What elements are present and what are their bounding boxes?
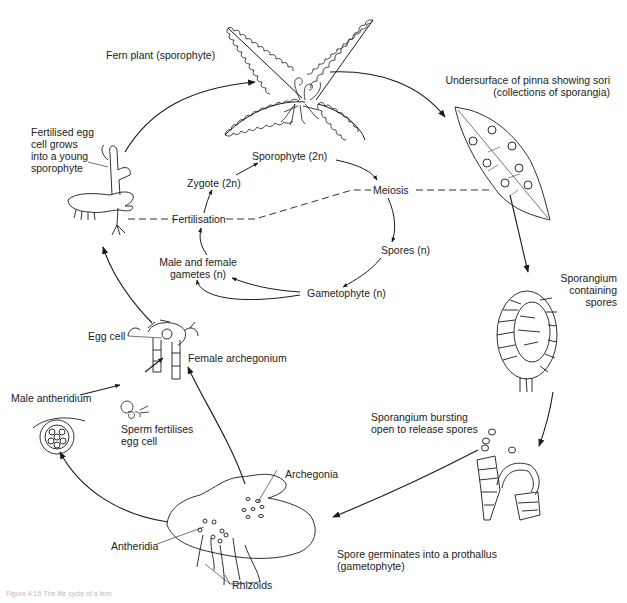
label-inner-zygote: Zygote (2n) xyxy=(187,177,241,189)
dash-fertilisation-to-meiosis xyxy=(226,190,371,219)
label-inner-sporophyte: Sporophyte (2n) xyxy=(252,150,327,162)
figure-caption: Figure 4.16 The life cycle of a fern xyxy=(6,590,112,597)
label-male-antheridium: Male antheridium xyxy=(11,392,92,404)
arrow-sperm-to-archegonium xyxy=(145,358,163,372)
leader-rhizoids-2 xyxy=(225,575,230,584)
label-inner-gametes: Male and female gametes (n) xyxy=(148,256,248,280)
label-prothallus: Spore germinates into a prothallus (game… xyxy=(337,548,497,572)
arrow-gametophyte-to-gametes-2 xyxy=(197,280,300,300)
arrow-sporangium-to-bursting xyxy=(539,392,553,446)
archegonium-drawing xyxy=(128,320,198,379)
label-sporangium-bursting: Sporangium bursting open to release spor… xyxy=(371,411,478,435)
pinna-leaf-drawing xyxy=(455,107,550,220)
arrow-prothallus-to-antheridium xyxy=(60,452,168,522)
arrow-spores-to-gametophyte xyxy=(343,258,381,287)
leader-antheridia xyxy=(157,527,204,544)
label-young-sporophyte: Fertilised egg cell grows into a young s… xyxy=(31,126,94,174)
label-sporangium: Sporangium containing spores xyxy=(545,272,617,308)
leader-rhizoids-1 xyxy=(205,564,230,584)
label-sperm: Sperm fertilises egg cell xyxy=(121,423,193,447)
arrow-pinna-to-sporangium xyxy=(510,195,528,272)
arrow-archegonium-to-young xyxy=(103,247,152,323)
leader-egg-cell xyxy=(128,336,162,338)
arrow-gametes-to-fertilisation xyxy=(200,228,207,255)
arrow-fern-to-pinna xyxy=(330,72,445,117)
label-inner-fertilisation: Fertilisation xyxy=(172,213,226,225)
label-rhizoids: Rhizoids xyxy=(232,579,272,591)
antheridium-drawing xyxy=(33,418,85,454)
label-inner-spores: Spores (n) xyxy=(381,244,430,256)
archegonia-marks xyxy=(242,498,264,519)
label-pinna: Undersurface of pinna showing sori (coll… xyxy=(440,74,610,98)
label-archegonia: Archegonia xyxy=(285,468,338,480)
arrow-meiosis-to-spores xyxy=(388,198,395,242)
label-female-archegonium: Female archegonium xyxy=(188,352,287,364)
sori-dots xyxy=(469,126,532,189)
arrow-bursting-to-prothallus xyxy=(333,450,478,517)
arrow-fertilisation-to-zygote xyxy=(204,190,212,213)
arrow-zygote-to-sporophyte xyxy=(236,163,258,175)
rhizoid-hairs xyxy=(197,535,260,585)
label-egg-cell: Egg cell xyxy=(88,330,125,342)
arrow-gametophyte-to-gametes-1 xyxy=(232,278,300,292)
sporangium-bursting-drawing xyxy=(477,429,540,520)
arrow-prothallus-to-archegonium xyxy=(188,367,245,484)
sperm-drawing xyxy=(121,401,149,418)
label-inner-meiosis: Meiosis xyxy=(373,184,409,196)
arrow-young-to-fern xyxy=(125,82,255,152)
label-inner-gametophyte: Gametophyte (n) xyxy=(307,287,386,299)
prothallus-drawing xyxy=(167,474,315,585)
arrow-sporophyte-to-meiosis xyxy=(336,160,377,180)
label-antheridia: Antheridia xyxy=(111,540,158,552)
label-fern-plant: Fern plant (sporophyte) xyxy=(106,49,215,61)
fern-plant-drawing xyxy=(225,20,373,140)
